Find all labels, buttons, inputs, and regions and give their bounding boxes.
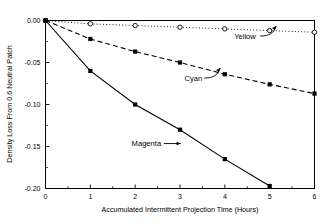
annotation-label-magenta: Magenta [132, 139, 162, 148]
y-tick-label: -0.20 [25, 185, 41, 192]
marker-magenta [133, 102, 137, 106]
x-axis-tick-labels: 0123456 [44, 193, 317, 200]
marker-magenta [88, 69, 92, 73]
x-tick-label: 5 [268, 193, 272, 200]
density-loss-line-chart: 0.00-0.05-0.10-0.15-0.20 0123456 YellowC… [0, 0, 331, 224]
y-tick-label: 0.00 [27, 17, 41, 24]
marker-magenta [268, 184, 272, 188]
x-tick-label: 6 [313, 193, 317, 200]
marker-cyan [312, 91, 316, 95]
y-axis-ticks [46, 21, 50, 189]
marker-cyan [223, 72, 227, 76]
marker-cyan [178, 60, 182, 64]
y-tick-label: -0.10 [25, 101, 41, 108]
x-tick-label: 4 [223, 193, 227, 200]
annotation-arrowhead-magenta [177, 142, 181, 145]
x-tick-label: 0 [44, 193, 48, 200]
x-axis-ticks [46, 185, 315, 189]
marker-magenta [178, 128, 182, 132]
annotation-label-yellow: Yellow [234, 32, 256, 41]
marker-yellow [312, 30, 316, 34]
y-axis-tick-labels: 0.00-0.05-0.10-0.15-0.20 [25, 17, 41, 192]
plot-frame [46, 21, 315, 189]
chart-figure: 0.00-0.05-0.10-0.15-0.20 0123456 YellowC… [0, 0, 331, 224]
x-tick-label: 2 [133, 193, 137, 200]
series-annotations: YellowCyanMagenta [132, 25, 278, 148]
y-axis-title: Density Loss From 0.6 Neutral Patch [5, 45, 14, 162]
marker-magenta [223, 157, 227, 161]
series-lines [46, 21, 315, 186]
marker-cyan [268, 82, 272, 86]
marker-cyan [133, 49, 137, 53]
x-tick-label: 1 [88, 193, 92, 200]
marker-yellow [178, 25, 182, 29]
annotation-arrowhead-cyan [216, 67, 221, 72]
x-axis-title: Accumulated Intermittent Projection Time… [102, 205, 259, 214]
marker-yellow [133, 23, 137, 27]
marker-magenta [43, 18, 47, 22]
y-tick-label: -0.15 [25, 143, 41, 150]
annotation-arrowhead-yellow [272, 25, 277, 30]
series-line-cyan [46, 21, 315, 94]
x-tick-label: 3 [178, 193, 182, 200]
series-line-magenta [46, 21, 270, 186]
series-markers [43, 18, 316, 188]
marker-yellow [88, 22, 92, 26]
annotation-label-cyan: Cyan [185, 74, 203, 83]
marker-yellow [223, 27, 227, 31]
marker-cyan [88, 37, 92, 41]
marker-yellow [267, 28, 271, 32]
y-tick-label: -0.05 [25, 59, 41, 66]
